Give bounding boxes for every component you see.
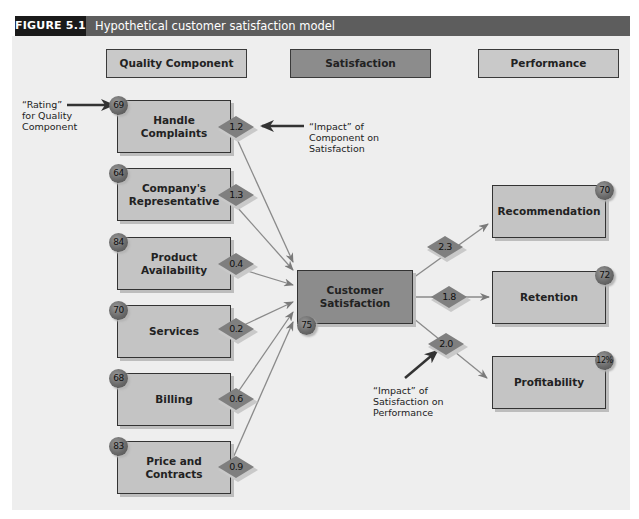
box-label-line1: Company's <box>142 182 206 194</box>
rating-badge-profitability: 12% <box>595 351 614 370</box>
rating-badge-companys-representative: 64 <box>109 164 128 183</box>
impact-diamond-handle-complaints: 1.2 <box>218 116 254 140</box>
box-label-line1: Handle <box>153 114 195 126</box>
impact-value: 1.8 <box>431 286 467 308</box>
rating-badge-retention: 72 <box>595 266 614 285</box>
annotation-line: Component on <box>309 132 379 143</box>
impact-value: 0.9 <box>218 456 254 478</box>
impact-value: 0.6 <box>218 388 254 410</box>
impact-diamond-price-and-contracts: 0.9 <box>218 456 254 480</box>
rating-badge-recommendation: 70 <box>595 181 614 200</box>
impact-diamond-retention: 1.8 <box>431 286 467 310</box>
annotation-rating: “Rating” for Quality Component <box>22 99 77 132</box>
quality-box-companys-representative: Company'sRepresentative <box>117 168 231 221</box>
column-header-satisfaction: Satisfaction <box>290 49 431 78</box>
box-label-line1: Services <box>149 325 199 337</box>
impact-diamond-companys-representative: 1.3 <box>218 184 254 208</box>
performance-box-profitability: Profitability <box>492 356 606 409</box>
box-label-line1: Product <box>151 251 197 263</box>
annotation-line: Satisfaction <box>309 143 365 154</box>
quality-box-billing: Billing <box>117 373 231 426</box>
quality-box-services: Services <box>117 305 231 358</box>
performance-box-recommendation: Recommendation <box>492 185 606 238</box>
box-label-line1: Billing <box>155 393 192 405</box>
quality-box-handle-complaints: HandleComplaints <box>117 100 231 153</box>
box-label: Profitability <box>514 376 584 389</box>
rating-badge-customer-satisfaction: 75 <box>297 316 316 335</box>
box-label-line2: Satisfaction <box>320 297 391 309</box>
column-header-quality-component: Quality Component <box>106 49 247 78</box>
quality-box-product-availability: ProductAvailability <box>117 237 231 290</box>
annotation-line: “Rating” <box>22 99 62 110</box>
impact-diamond-services: 0.2 <box>218 318 254 342</box>
annotation-line: Performance <box>373 407 433 418</box>
impact-value: 1.3 <box>218 184 254 206</box>
impact-value: 0.4 <box>218 253 254 275</box>
column-header-performance: Performance <box>478 49 619 78</box>
rating-badge-billing: 68 <box>109 369 128 388</box>
annotation-line: “Impact” of <box>373 385 428 396</box>
box-label: Retention <box>520 291 578 304</box>
impact-value: 0.2 <box>218 318 254 340</box>
performance-box-retention: Retention <box>492 271 606 324</box>
annotation-impact-satisfaction: “Impact” of Satisfaction on Performance <box>373 385 444 418</box>
box-label-line2: Complaints <box>141 127 207 139</box>
impact-value: 2.0 <box>428 333 464 355</box>
box-label-line2: Representative <box>129 195 220 207</box>
customer-satisfaction-box: CustomerSatisfaction <box>297 270 413 324</box>
box-label-line1: Price and <box>146 455 202 467</box>
impact-diamond-billing: 0.6 <box>218 388 254 412</box>
rating-badge-product-availability: 84 <box>109 233 128 252</box>
impact-value: 1.2 <box>218 116 254 138</box>
annotation-line: Satisfaction on <box>373 396 444 407</box>
box-label: Recommendation <box>497 205 600 218</box>
quality-box-price-and-contracts: Price andContracts <box>117 441 231 494</box>
impact-diamond-recommendation: 2.3 <box>427 236 463 260</box>
impact-diamond-profitability: 2.0 <box>428 333 464 357</box>
annotation-line: Component <box>22 121 77 132</box>
box-label-line2: Contracts <box>145 468 202 480</box>
annotation-impact-component: “Impact” of Component on Satisfaction <box>309 121 379 154</box>
impact-diamond-product-availability: 0.4 <box>218 253 254 277</box>
impact-value: 2.3 <box>427 236 463 258</box>
rating-badge-services: 70 <box>109 301 128 320</box>
box-label-line2: Availability <box>141 264 207 276</box>
rating-badge-price-and-contracts: 83 <box>109 437 128 456</box>
rating-badge-handle-complaints: 69 <box>109 96 128 115</box>
annotation-line: “Impact” of <box>309 121 364 132</box>
box-label-line1: Customer <box>327 284 384 296</box>
annotation-line: for Quality <box>22 110 72 121</box>
